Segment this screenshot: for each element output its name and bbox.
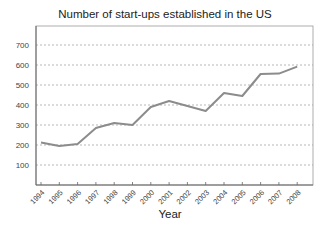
y-tick-label: 600	[16, 61, 30, 70]
x-tick-label: 1999	[120, 188, 138, 206]
x-tick-label: 1995	[47, 188, 65, 206]
x-tick-label: 1996	[65, 188, 83, 206]
x-tick-label: 2006	[248, 188, 266, 206]
x-tick-label: 1994	[28, 188, 46, 206]
y-tick-label: 500	[16, 81, 30, 90]
y-axis-ticks: 100200300400500600700	[16, 41, 30, 170]
y-tick-label: 300	[16, 121, 30, 130]
y-tick-label: 400	[16, 101, 30, 110]
x-tick-label: 2000	[138, 188, 156, 206]
line-chart: 100200300400500600700 199419951996199719…	[0, 0, 330, 233]
x-tick-label: 2001	[156, 188, 174, 206]
y-tick-label: 100	[16, 161, 30, 170]
gridlines	[36, 45, 313, 165]
y-tick-label: 200	[16, 141, 30, 150]
x-tick-label: 2008	[284, 188, 302, 206]
x-axis-ticks: 1994199519961997199819992000200120022003…	[28, 182, 302, 206]
x-tick-label: 2007	[266, 188, 284, 206]
x-tick-label: 2005	[230, 188, 248, 206]
x-tick-label: 2003	[193, 188, 211, 206]
x-tick-label: 1998	[101, 188, 119, 206]
x-tick-label: 1997	[83, 188, 101, 206]
data-line	[41, 67, 297, 146]
x-axis-title: Year	[150, 208, 190, 220]
x-tick-label: 2002	[175, 188, 193, 206]
y-tick-label: 700	[16, 41, 30, 50]
plot-area-border	[36, 26, 313, 185]
x-tick-label: 2004	[211, 188, 229, 206]
